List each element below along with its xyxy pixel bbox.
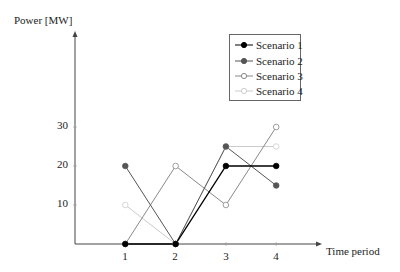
legend-item-scenario-4: Scenario 4 bbox=[234, 84, 300, 98]
series-line-2 bbox=[125, 147, 276, 245]
filled-circle-marker-icon bbox=[234, 38, 254, 52]
data-point bbox=[273, 183, 279, 189]
data-point bbox=[223, 202, 229, 208]
y-axis-label: Power [MW] bbox=[14, 14, 72, 26]
data-point bbox=[173, 241, 179, 247]
data-point bbox=[223, 144, 229, 150]
legend-item-scenario-2: Scenario 2 bbox=[234, 54, 300, 68]
legend-item-scenario-1: Scenario 1 bbox=[234, 38, 300, 52]
legend: Scenario 1 Scenario 2 Scenario 3 Scenari… bbox=[229, 34, 301, 101]
data-point bbox=[123, 163, 129, 169]
legend-label: Scenario 2 bbox=[256, 54, 303, 68]
data-point bbox=[123, 202, 129, 208]
plot-area bbox=[0, 0, 400, 272]
data-point bbox=[273, 144, 279, 150]
y-tick-label-20: 20 bbox=[44, 158, 68, 170]
y-tick-label-10: 10 bbox=[44, 197, 68, 209]
y-tick-label-30: 30 bbox=[44, 119, 68, 131]
x-axis-label: Time period bbox=[326, 245, 380, 257]
series-line-3 bbox=[125, 127, 276, 244]
legend-label: Scenario 3 bbox=[256, 69, 303, 83]
data-point bbox=[173, 163, 179, 169]
data-point bbox=[123, 241, 129, 247]
open-circle-marker-icon bbox=[234, 84, 254, 98]
legend-label: Scenario 4 bbox=[256, 84, 303, 98]
line-chart: Power [MW] Time period 30 20 10 1 2 3 4 … bbox=[0, 0, 400, 272]
x-tick-label-1: 1 bbox=[117, 250, 133, 262]
legend-label: Scenario 1 bbox=[256, 38, 303, 52]
data-point bbox=[273, 124, 279, 130]
legend-item-scenario-3: Scenario 3 bbox=[234, 69, 300, 83]
x-tick-label-4: 4 bbox=[268, 250, 284, 262]
x-axis-arrow-icon bbox=[316, 242, 322, 247]
y-axis-arrow-icon bbox=[73, 31, 78, 37]
data-point bbox=[273, 163, 279, 169]
series-line-1 bbox=[125, 166, 276, 244]
data-point bbox=[223, 163, 229, 169]
x-tick-label-2: 2 bbox=[167, 250, 183, 262]
open-circle-marker-icon bbox=[234, 69, 254, 83]
x-tick-label-3: 3 bbox=[218, 250, 234, 262]
filled-circle-marker-icon bbox=[234, 54, 254, 68]
